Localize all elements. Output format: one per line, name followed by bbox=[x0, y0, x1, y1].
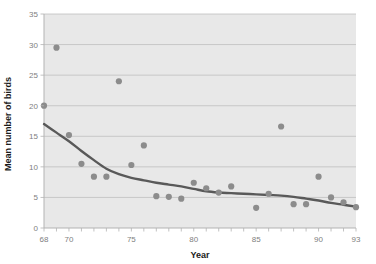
data-point bbox=[203, 185, 209, 191]
data-point bbox=[78, 161, 84, 167]
data-point bbox=[253, 205, 259, 211]
data-point bbox=[166, 194, 172, 200]
y-tick-label-20: 20 bbox=[29, 102, 38, 111]
data-point bbox=[303, 201, 309, 207]
data-point bbox=[128, 162, 134, 168]
chart-container: 05101520253035 68707580859093 Year Mean … bbox=[0, 0, 376, 264]
plot-area-background bbox=[44, 14, 356, 228]
data-point bbox=[66, 132, 72, 138]
data-point bbox=[291, 201, 297, 207]
data-point bbox=[340, 199, 346, 205]
data-point bbox=[116, 78, 122, 84]
data-point bbox=[191, 180, 197, 186]
x-tick-label-70: 70 bbox=[65, 235, 74, 244]
data-point bbox=[228, 183, 234, 189]
y-tick-label-0: 0 bbox=[34, 224, 39, 233]
data-point bbox=[103, 174, 109, 180]
y-tick-label-35: 35 bbox=[29, 10, 38, 19]
y-axis-title: Mean number of birds bbox=[3, 77, 13, 171]
data-point bbox=[153, 193, 159, 199]
data-point bbox=[266, 191, 272, 197]
data-point bbox=[328, 194, 334, 200]
y-tick-label-25: 25 bbox=[29, 71, 38, 80]
data-point bbox=[141, 142, 147, 148]
x-tick-label-80: 80 bbox=[189, 235, 198, 244]
data-point bbox=[353, 204, 359, 210]
plot-area bbox=[44, 14, 356, 228]
data-point bbox=[216, 189, 222, 195]
y-tick-label-15: 15 bbox=[29, 132, 38, 141]
bird-population-scatter-chart: 05101520253035 68707580859093 Year Mean … bbox=[0, 0, 376, 264]
data-point bbox=[91, 174, 97, 180]
y-tick-label-10: 10 bbox=[29, 163, 38, 172]
x-tick-label-85: 85 bbox=[252, 235, 261, 244]
x-tick-label-68: 68 bbox=[40, 235, 49, 244]
x-tick-label-75: 75 bbox=[127, 235, 136, 244]
y-tick-label-30: 30 bbox=[29, 41, 38, 50]
data-point bbox=[178, 196, 184, 202]
x-tick-label-93: 93 bbox=[352, 235, 361, 244]
data-point bbox=[315, 174, 321, 180]
data-point bbox=[278, 123, 284, 129]
x-axis-title: Year bbox=[190, 250, 210, 260]
x-tick-label-90: 90 bbox=[314, 235, 323, 244]
y-tick-label-5: 5 bbox=[34, 193, 39, 202]
data-point bbox=[53, 45, 59, 51]
